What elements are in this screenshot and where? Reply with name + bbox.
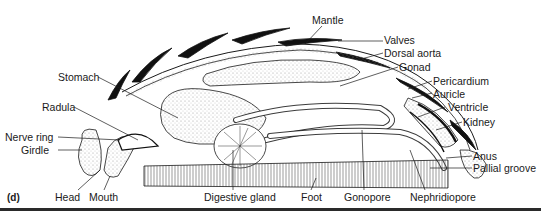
label-radula: Radula <box>42 101 75 113</box>
label-stomach: Stomach <box>58 71 99 83</box>
label-head: Head <box>55 191 80 203</box>
label-auricle: Auricle <box>433 88 465 100</box>
label-digestive-gland: Digestive gland <box>204 191 276 203</box>
label-gonad: Gonad <box>399 61 431 73</box>
label-valves: Valves <box>384 34 415 46</box>
label-ventricle: Ventricle <box>448 101 488 113</box>
label-girdle: Girdle <box>21 144 49 156</box>
diagram-stage: Mantle Valves Dorsal aorta Gonad Pericar… <box>0 0 541 219</box>
label-kidney: Kidney <box>463 116 495 128</box>
label-anus: Anus <box>473 150 497 162</box>
label-nephridiopore: Nephridiopore <box>410 191 476 203</box>
label-nerve-ring: Nerve ring <box>5 131 53 143</box>
label-mantle: Mantle <box>312 14 344 26</box>
label-foot: Foot <box>301 191 322 203</box>
panel-label: (d) <box>7 192 20 203</box>
label-pallial-groove: Pallial groove <box>473 162 536 174</box>
label-gonopore: Gonopore <box>344 191 391 203</box>
label-pericardium: Pericardium <box>433 75 489 87</box>
label-dorsal-aorta: Dorsal aorta <box>384 47 441 59</box>
label-mouth: Mouth <box>89 191 118 203</box>
bottom-rule <box>0 208 541 211</box>
